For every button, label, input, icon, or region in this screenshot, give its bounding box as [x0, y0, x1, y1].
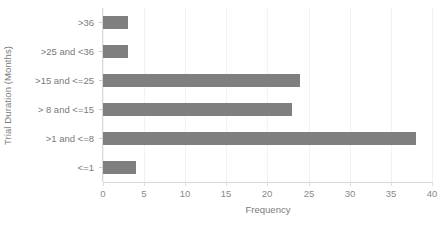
gridline-40 [432, 8, 433, 182]
bar-chart: Trial Duration (Months) >36 >25 and <36 … [0, 0, 448, 235]
y-axis-tick-labels: >36 >25 and <36 >15 and <=25 > 8 and <=1… [16, 8, 99, 182]
bar-gt8-lte15[interactable] [103, 103, 292, 116]
x-tick-label-15: 15 [221, 188, 232, 199]
x-tick-label-20: 20 [262, 188, 273, 199]
bar-row [103, 153, 432, 182]
y-axis-title: Trial Duration (Months) [0, 0, 16, 190]
x-tick-mark [391, 183, 392, 186]
bar-row [103, 8, 432, 37]
x-tick-mark [350, 183, 351, 186]
x-axis-tick-labels: 0 5 10 15 20 25 30 35 40 [103, 188, 433, 202]
y-tick-label-gt1-lte8: >1 and <=8 [16, 124, 99, 153]
bar-row [103, 124, 432, 153]
x-tick-mark [309, 183, 310, 186]
bar-lte1[interactable] [103, 161, 136, 174]
x-tick-mark [432, 183, 433, 186]
y-tick-label-gt36: >36 [16, 8, 99, 37]
x-tick-mark [185, 183, 186, 186]
bar-gt25-lt36[interactable] [103, 45, 128, 58]
bar-gt1-lte8[interactable] [103, 132, 416, 145]
bar-row [103, 95, 432, 124]
x-tick-label-5: 5 [141, 188, 146, 199]
x-tick-label-0: 0 [100, 188, 105, 199]
bar-series [103, 8, 432, 182]
x-tick-label-30: 30 [345, 188, 356, 199]
y-tick-label-gt15-lte25: >15 and <=25 [16, 66, 99, 95]
bar-gt36[interactable] [103, 16, 128, 29]
x-tick-label-35: 35 [386, 188, 397, 199]
y-tick-label-gt25-lt36: >25 and <36 [16, 37, 99, 66]
x-axis-title: Frequency [103, 204, 433, 215]
x-tick-mark [226, 183, 227, 186]
x-tick-mark [267, 183, 268, 186]
x-tick-mark [144, 183, 145, 186]
x-axis-line [103, 182, 433, 183]
x-tick-label-40: 40 [427, 188, 438, 199]
plot-area [103, 8, 432, 182]
y-axis-title-text: Trial Duration (Months) [3, 45, 14, 144]
x-tick-mark [103, 183, 104, 186]
bar-gt15-lte25[interactable] [103, 74, 300, 87]
y-tick-label-lte1: <=1 [16, 153, 99, 182]
y-tick-label-gt8-lte15: > 8 and <=15 [16, 95, 99, 124]
x-tick-label-25: 25 [304, 188, 315, 199]
bar-row [103, 66, 432, 95]
x-tick-label-10: 10 [180, 188, 191, 199]
bar-row [103, 37, 432, 66]
